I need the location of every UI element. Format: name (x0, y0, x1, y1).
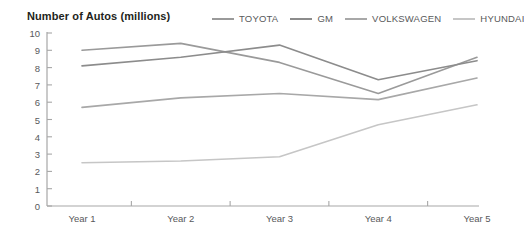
series-line-toyota (82, 43, 477, 93)
legend-swatch-icon (453, 18, 475, 20)
chart-title: Number of Autos (millions) (27, 10, 170, 22)
chart-legend: TOYOTAGMVOLKSWAGENHYUNDAI (212, 13, 524, 24)
legend-item-hyundai[interactable]: HYUNDAI (453, 13, 524, 24)
y-axis-tick-label: 4 (20, 131, 40, 142)
legend-swatch-icon (290, 18, 312, 20)
plot-area (47, 33, 479, 206)
legend-label: HYUNDAI (480, 13, 524, 24)
y-axis-tick-label: 9 (20, 45, 40, 56)
x-axis-tick-label: Year 4 (343, 213, 413, 224)
y-axis-tick-label: 7 (20, 79, 40, 90)
y-axis-tick-label: 1 (20, 183, 40, 194)
legend-item-volkswagen[interactable]: VOLKSWAGEN (345, 13, 441, 24)
legend-label: TOYOTA (239, 13, 278, 24)
y-axis-tick-label: 2 (20, 166, 40, 177)
legend-label: GM (317, 13, 333, 24)
x-axis-tick-label: Year 1 (47, 213, 117, 224)
y-axis-tick-label: 10 (20, 28, 40, 39)
legend-swatch-icon (212, 18, 234, 20)
x-axis-tick-label: Year 3 (245, 213, 315, 224)
y-axis-tick-label: 8 (20, 62, 40, 73)
legend-item-gm[interactable]: GM (290, 13, 333, 24)
y-axis-tick-label: 0 (20, 201, 40, 212)
y-axis-tick-label: 5 (20, 114, 40, 125)
y-axis-tick-label: 6 (20, 97, 40, 108)
x-axis-tick-label: Year 2 (146, 213, 216, 224)
y-axis-tick-label: 3 (20, 149, 40, 160)
legend-label: VOLKSWAGEN (372, 13, 441, 24)
series-line-volkswagen (82, 78, 477, 107)
plot-svg (47, 33, 479, 206)
legend-item-toyota[interactable]: TOYOTA (212, 13, 278, 24)
series-line-hyundai (82, 105, 477, 163)
x-axis-tick-label: Year 5 (442, 213, 512, 224)
legend-swatch-icon (345, 18, 367, 20)
